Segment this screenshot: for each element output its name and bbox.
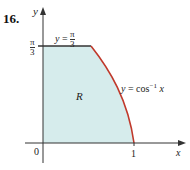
arg: x [159, 83, 163, 94]
origin-label: 0 [34, 147, 39, 157]
eq: = [62, 33, 68, 44]
y-axis-arrow-icon [40, 7, 46, 15]
lhs: y [121, 83, 125, 94]
x-one-label: 1 [131, 149, 136, 159]
top-line-label: y = π 3 [55, 30, 75, 49]
tick-num: π [30, 38, 35, 47]
problem-number: 16. [3, 12, 19, 25]
x-axis-arrow-icon [178, 140, 186, 146]
curve-label: y = cos−1 x [121, 83, 164, 94]
fn: cos [136, 83, 149, 94]
y-axis-label: y [33, 6, 38, 17]
sup: −1 [149, 82, 156, 90]
eq: = [128, 83, 134, 94]
den: 3 [70, 40, 75, 49]
region-label: R [76, 91, 83, 102]
lhs: y [55, 33, 59, 44]
x-axis-label: x [176, 148, 180, 158]
num: π [70, 30, 75, 39]
tick-den: 3 [30, 48, 35, 57]
tick-y-pi-over-3: π 3 [30, 38, 35, 57]
